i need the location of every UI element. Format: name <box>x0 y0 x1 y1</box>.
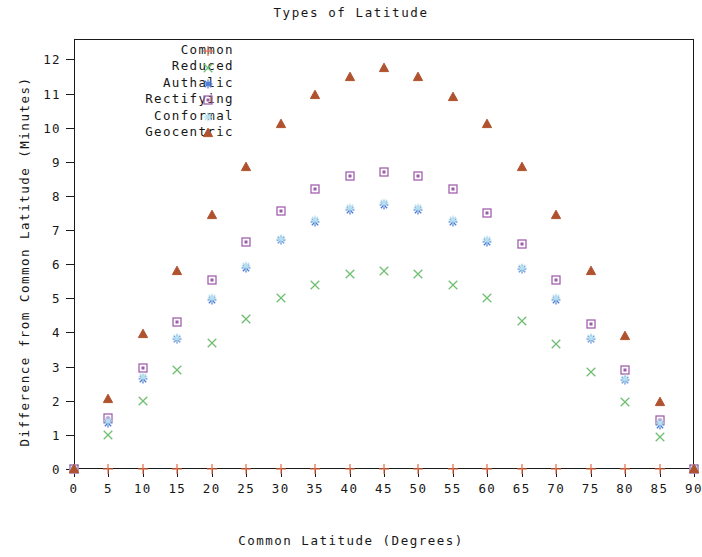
y-tick-label: 6 <box>52 257 61 272</box>
x-tick <box>246 469 247 477</box>
x-tick <box>522 469 523 477</box>
y-tick-label: 8 <box>52 188 61 203</box>
x-tick-label: 15 <box>168 481 186 496</box>
x-tick-label: 10 <box>134 481 152 496</box>
x-tick <box>418 469 419 477</box>
x-tick <box>453 469 454 477</box>
y-tick <box>66 59 74 60</box>
y-tick-label: 12 <box>43 52 61 67</box>
x-tick-label: 5 <box>104 481 113 496</box>
x-tick-label: 35 <box>306 481 324 496</box>
y-tick <box>66 196 74 197</box>
x-tick-label: 30 <box>272 481 290 496</box>
legend-label: Rectifying <box>145 91 234 107</box>
y-tick <box>66 367 74 368</box>
legend-marker-triangle-icon <box>201 125 215 144</box>
x-tick-label: 20 <box>203 481 221 496</box>
legend-label: Geocentric <box>145 124 234 140</box>
x-tick <box>694 469 695 477</box>
x-tick <box>591 469 592 477</box>
y-tick <box>66 128 74 129</box>
chart-legend: CommonReducedAuthalicRectifyingConformal… <box>104 42 234 140</box>
legend-item-conformal[interactable]: Conformal <box>104 108 234 124</box>
x-tick <box>108 469 109 477</box>
y-tick-label: 0 <box>52 462 61 477</box>
legend-item-geocentric[interactable]: Geocentric <box>104 124 234 140</box>
y-tick <box>66 230 74 231</box>
y-tick <box>66 401 74 402</box>
y-tick-label: 10 <box>43 120 61 135</box>
x-tick <box>74 469 75 477</box>
x-tick <box>556 469 557 477</box>
x-tick-label: 50 <box>410 481 428 496</box>
y-tick-label: 4 <box>52 325 61 340</box>
x-tick-label: 60 <box>478 481 496 496</box>
x-tick <box>212 469 213 477</box>
legend-label: Conformal <box>154 108 234 124</box>
x-tick-label: 85 <box>651 481 669 496</box>
x-tick <box>350 469 351 477</box>
legend-label: Authalic <box>163 75 234 91</box>
x-tick-label: 45 <box>375 481 393 496</box>
y-axis-label: Difference from Common Latitude (Minutes… <box>17 42 32 482</box>
y-tick <box>66 469 74 470</box>
y-tick-label: 11 <box>43 86 61 101</box>
y-tick <box>66 264 74 265</box>
legend-item-authalic[interactable]: Authalic <box>104 75 234 91</box>
y-tick-label: 3 <box>52 359 61 374</box>
y-tick <box>66 298 74 299</box>
x-tick <box>177 469 178 477</box>
x-tick <box>143 469 144 477</box>
x-tick <box>281 469 282 477</box>
x-tick-label: 70 <box>547 481 565 496</box>
x-tick-label: 40 <box>341 481 359 496</box>
x-tick <box>384 469 385 477</box>
legend-item-reduced[interactable]: Reduced <box>104 58 234 74</box>
x-tick <box>315 469 316 477</box>
x-tick-label: 75 <box>582 481 600 496</box>
x-tick-label: 25 <box>237 481 255 496</box>
y-tick-label: 5 <box>52 291 61 306</box>
y-tick <box>66 332 74 333</box>
x-tick-label: 90 <box>685 481 702 496</box>
y-tick-label: 9 <box>52 154 61 169</box>
legend-item-rectifying[interactable]: Rectifying <box>104 91 234 107</box>
y-tick-label: 1 <box>52 427 61 442</box>
y-tick <box>66 94 74 95</box>
x-tick-label: 80 <box>616 481 634 496</box>
chart-title: Types of Latitude <box>0 5 702 20</box>
x-tick-label: 55 <box>444 481 462 496</box>
x-tick-label: 0 <box>70 481 79 496</box>
legend-item-common[interactable]: Common <box>104 42 234 58</box>
x-tick-label: 65 <box>513 481 531 496</box>
y-tick <box>66 435 74 436</box>
chart-root: Types of Latitude 0123456789101112 05101… <box>0 0 702 557</box>
y-tick <box>66 162 74 163</box>
x-tick <box>660 469 661 477</box>
y-tick-label: 7 <box>52 223 61 238</box>
y-tick-label: 2 <box>52 393 61 408</box>
x-tick <box>625 469 626 477</box>
x-axis-label: Common Latitude (Degrees) <box>0 533 702 548</box>
x-tick <box>487 469 488 477</box>
